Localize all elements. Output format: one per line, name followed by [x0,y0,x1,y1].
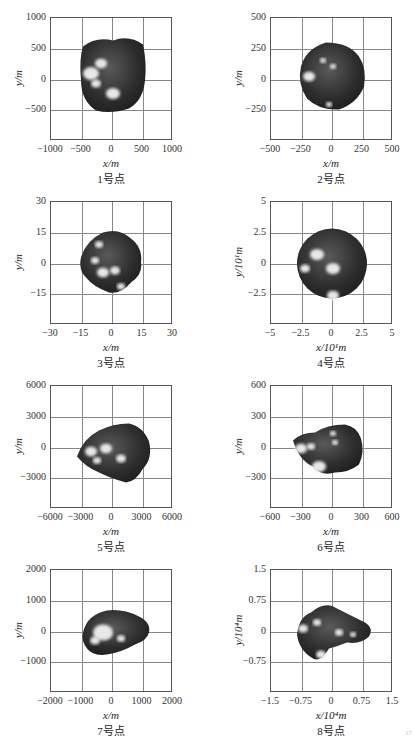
chart-panel-3: 30150−15−30−1501530x/m3号点y/m [0,184,207,368]
chart-panel-5: 600030000−3000−6000−3000030006000x/m5号点y… [0,368,207,552]
x-axis-label: x/m [291,157,371,169]
chart-panel-2: 5002500−250−500−2500250500x/m2号点y/m [207,0,414,184]
page-mark: 17 [405,729,412,737]
y-tick-label: 5 [232,196,266,206]
asteroid-shape [51,202,173,325]
x-tick-label: 600 [372,512,412,522]
chart-panel-4: 52.50−2.5−5−2.502.55x/10¹m4号点y/10¹m [207,184,414,368]
y-tick-label: 2000 [12,564,46,574]
plot-area [50,17,172,140]
panel-caption: 8号点 [291,722,371,738]
plot-area [270,569,392,692]
chart-panel-7: 200010000−1000−2000−1000010002000x/m7号点y… [0,552,207,736]
x-tick-label: 30 [152,328,192,338]
asteroid-shape [271,386,393,509]
chart-panel-6: 6003000−300−600−3000300600x/m6号点y/m [207,368,414,552]
asteroid-shape [51,570,173,693]
y-axis-label: y/m [232,48,244,108]
y-tick-label: 1000 [12,12,46,22]
y-axis-label: y/m [12,48,24,108]
asteroid-shape [51,386,173,509]
y-tick-label: 30 [12,196,46,206]
y-axis-label: y/m [12,232,24,292]
x-tick-label: 6000 [152,512,192,522]
plot-area [50,569,172,692]
plot-area [270,385,392,508]
y-axis-label: y/m [232,416,244,476]
x-axis-label: x/m [71,525,151,537]
x-axis-label: x/10¹m [291,341,371,353]
panel-caption: 7号点 [71,722,151,738]
x-axis-label: x/m [291,525,371,537]
y-axis-label: y/m [12,600,24,660]
y-tick-label: 1.5 [232,564,266,574]
y-axis-label: y/m [12,416,24,476]
y-tick-label: 600 [232,380,266,390]
x-tick-label: 1000 [152,144,192,154]
y-axis-label: y/10¹m [232,232,244,292]
chart-panel-1: 10005000−500−1000−50005001000x/m1号点y/m [0,0,207,184]
asteroid-shape [271,202,393,325]
y-tick-label: 6000 [12,380,46,390]
x-axis-label: x/m [71,341,151,353]
y-axis-label: y/10⁴m [232,600,244,660]
x-axis-label: x/m [71,709,151,721]
chart-panel-8: 1.50.750−0.75−1.5−0.7500.751.5x/10⁴m8号点y… [207,552,414,736]
asteroid-shape [271,18,393,141]
asteroid-shape [271,570,393,693]
asteroid-shape [51,18,173,141]
x-tick-label: 2000 [152,696,192,706]
x-axis-label: x/m [71,157,151,169]
x-tick-label: 5 [372,328,412,338]
x-axis-label: x/10⁴m [291,709,371,721]
plot-area [270,201,392,324]
plot-area [50,201,172,324]
plot-area [50,385,172,508]
y-tick-label: 500 [232,12,266,22]
plot-area [270,17,392,140]
x-tick-label: 1.5 [372,696,412,706]
x-tick-label: 500 [372,144,412,154]
